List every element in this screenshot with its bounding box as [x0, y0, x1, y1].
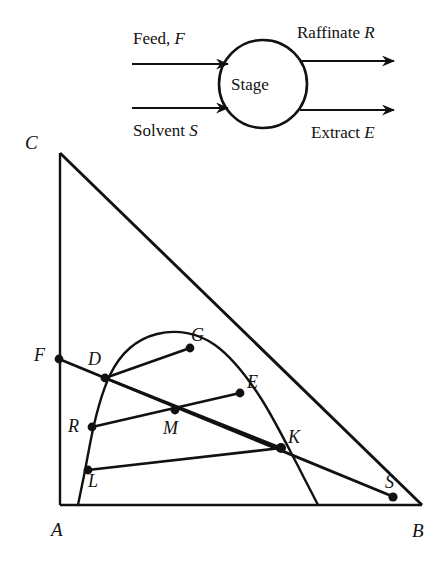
point-label-G: G [191, 326, 204, 344]
raffinate-label-text: Raffinate [297, 23, 360, 42]
point-label-M: M [163, 419, 178, 437]
solvent-label-text: Solvent [133, 121, 185, 140]
solvent-label: Solvent S [133, 122, 198, 139]
point-label-E: E [247, 373, 258, 391]
feed-label-text: Feed, [133, 29, 170, 48]
extract-label: Extract E [311, 124, 375, 141]
point-marker-S [388, 492, 397, 501]
solvent-label-symbol: S [189, 121, 198, 140]
point-marker-D [101, 374, 110, 383]
binodal-curve [78, 332, 318, 505]
stage-block-label: Stage [231, 76, 269, 93]
point-label-S: S [385, 473, 394, 491]
extract-label-text: Extract [311, 123, 360, 142]
point-label-D: D [88, 350, 101, 368]
vertex-label-C: C [25, 133, 38, 152]
raffinate-label: Raffinate R [297, 24, 375, 41]
tie-line-L-K [88, 448, 281, 470]
vertex-label-A: A [51, 520, 63, 539]
point-label-L: L [88, 472, 98, 490]
point-marker-R [88, 423, 97, 432]
point-label-F: F [34, 346, 45, 364]
figure-svg [0, 0, 448, 567]
point-marker-F [55, 355, 64, 364]
point-marker-E [236, 389, 245, 398]
vertex-label-B: B [412, 521, 424, 540]
raffinate-label-symbol: R [364, 23, 374, 42]
point-label-R: R [68, 417, 79, 435]
feed-label: Feed, F [133, 30, 185, 47]
point-marker-M [171, 406, 180, 415]
extract-label-symbol: E [364, 123, 374, 142]
feed-label-symbol: F [175, 29, 185, 48]
figure-canvas: Feed, F Solvent S Raffinate R Extract E … [0, 0, 448, 567]
ternary-diagram [55, 153, 422, 505]
point-marker-K [276, 443, 286, 453]
point-label-K: K [288, 428, 300, 446]
